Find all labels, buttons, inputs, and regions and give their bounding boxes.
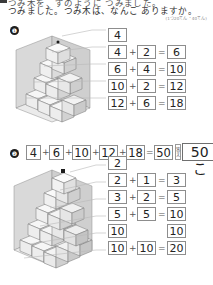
eq-operator: + [129, 226, 135, 236]
eq-operator: + [129, 64, 135, 74]
eq-operator: + [129, 243, 135, 253]
eq-operator: + [129, 192, 135, 202]
eq-equals: = [158, 64, 165, 74]
eq-operand-b: 10 [137, 241, 156, 255]
equation-row: 2 [108, 154, 186, 171]
eq-equals: = [158, 175, 165, 185]
equation-row: 10 + 10 = 20 [108, 239, 186, 256]
worksheet-header: つみ木を、ずのように つみました。 つみました。つみ木は、なんこ ありますか。 … [0, 0, 213, 24]
eq-result: 3 [167, 173, 186, 187]
eq-result: 5 [167, 190, 186, 204]
cube-stack-figure-2 [4, 160, 104, 272]
eq-operand-a: 2 [108, 156, 127, 170]
equation-row: 10 + 10 [108, 222, 186, 239]
eq-result: 20 [167, 241, 186, 255]
eq-result: 10 [167, 207, 186, 221]
eq-operand-a: 6 [108, 62, 127, 76]
equation-row: 6 + 4 = 10 [108, 60, 186, 77]
cube-stack-figure-1 [6, 32, 102, 124]
equation-row: 5 + 5 = 10 [108, 205, 186, 222]
eq-operand-b: 6 [137, 96, 156, 110]
eq-equals: = [158, 209, 165, 219]
eq-operand-b: 1 [137, 173, 156, 187]
equation-row: 4 + 2 = 6 [108, 43, 186, 60]
eq-operand-a: 10 [108, 79, 127, 93]
eq-operand-b: 2 [137, 45, 156, 59]
eq-operand-a: 3 [108, 190, 127, 204]
eq-operator: + [129, 98, 135, 108]
eq-operand-a: 10 [108, 224, 127, 238]
eq-equals: = [158, 243, 165, 253]
section-2-number: ❷ [10, 149, 19, 158]
points-note: (1つ20てん・40てん) [165, 15, 207, 21]
eq-operator: + [129, 81, 135, 91]
eq-result: 12 [167, 79, 186, 93]
equation-list-2: 2 2 + 1 = 3 3 + 2 = 5 5 + 5 = 10 [108, 154, 186, 256]
eq-operand-a: 10 [108, 241, 127, 255]
eq-result: 6 [167, 45, 186, 59]
eq-equals: = [158, 192, 165, 202]
eq-operand-a: 12 [108, 96, 127, 110]
eq-operator: + [129, 209, 135, 219]
eq-operand-a: 4 [108, 28, 127, 42]
eq-operand-a: 2 [108, 173, 127, 187]
eq-operand-b: 4 [137, 62, 156, 76]
eq-equals: = [158, 81, 165, 91]
eq-operand-a: 4 [108, 45, 127, 59]
header-marker-icon [0, 0, 7, 3]
eq-equals: = [158, 98, 165, 108]
worksheet-page: つみ木を、ずのように つみました。 つみました。つみ木は、なんこ ありますか。 … [0, 0, 213, 285]
equation-row: 4 [108, 26, 186, 43]
equation-list-1: 4 4 + 2 = 6 6 + 4 = 10 10 + 2 = 12 [108, 26, 186, 111]
eq-operand-b [137, 224, 156, 238]
eq-operand-a: 5 [108, 207, 127, 221]
eq-result: 10 [167, 224, 186, 238]
eq-result: 10 [167, 62, 186, 76]
eq-operand-b: 5 [137, 207, 156, 221]
eq-operand-b: 2 [137, 79, 156, 93]
equation-row: 2 + 1 = 3 [108, 171, 186, 188]
eq-operator: + [129, 175, 135, 185]
eq-equals: = [158, 47, 165, 57]
eq-operator: + [129, 47, 135, 57]
eq-operand-b: 2 [137, 190, 156, 204]
eq-result: 18 [167, 96, 186, 110]
section-2: ❷ [0, 146, 213, 285]
equation-row: 12 + 6 = 18 [108, 94, 186, 111]
equation-row: 3 + 2 = 5 [108, 188, 186, 205]
equation-row: 10 + 2 = 12 [108, 77, 186, 94]
section-1: ❶ [0, 24, 213, 144]
